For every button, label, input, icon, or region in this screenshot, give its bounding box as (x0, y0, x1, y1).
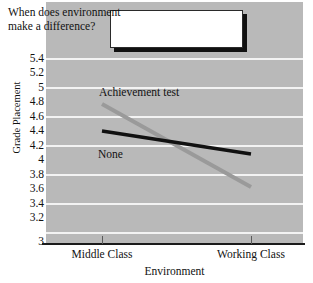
y-tick-label: 5.4 (0, 53, 44, 64)
x-tick-mark (251, 236, 252, 244)
y-tick-label: 3.4 (0, 198, 44, 209)
x-axis-line (42, 243, 305, 245)
y-tick-label: 4.6 (0, 111, 44, 122)
y-axis-title: Grade Placement (11, 53, 22, 183)
gridline (46, 145, 303, 147)
gridline (46, 232, 303, 234)
y-tick-label: 4.8 (0, 96, 44, 107)
y-tick-label: 3.8 (0, 169, 44, 180)
y-axis-ticks: 5.4 5.2 5 4.8 4.6 4.4 4.2 4 3.8 3.6 3.4 … (0, 0, 44, 283)
y-tick-label: 3.6 (0, 183, 44, 194)
gridline (46, 116, 303, 118)
y-tick-label: 4 (0, 154, 44, 165)
gridline (46, 58, 303, 60)
gridline (46, 174, 303, 176)
series-label-none: None (98, 148, 123, 160)
x-axis-title: Environment (46, 265, 303, 277)
chart-title: When does environment make a difference? (8, 5, 130, 33)
series-label-achievement-test: Achievement test (99, 86, 179, 98)
chart-title-line-1: When does environment (8, 5, 130, 19)
x-tick-mark (102, 236, 103, 244)
x-tick-label-working-class: Working Class (196, 248, 306, 260)
gridline (46, 203, 303, 205)
chart-title-line-2: make a difference? (8, 19, 130, 33)
y-tick-label: 5.2 (0, 67, 44, 78)
chart-container: 5.4 5.2 5 4.8 4.6 4.4 4.2 4 3.8 3.6 3.4 … (0, 0, 313, 283)
y-tick-label: 4.2 (0, 140, 44, 151)
y-tick-label: 3.2 (0, 212, 44, 223)
y-tick-label: 3 (0, 236, 44, 247)
y-tick-label: 4.4 (0, 125, 44, 136)
y-tick-label: 5 (0, 82, 44, 93)
x-tick-label-middle-class: Middle Class (47, 248, 157, 260)
